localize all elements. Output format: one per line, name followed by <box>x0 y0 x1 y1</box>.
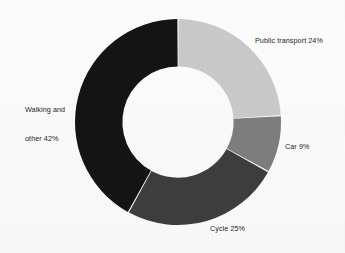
slice-label-walking-line1: Walking and <box>25 105 65 115</box>
donut-chart: Public transport 24% Car 9% Cycle 25% Wa… <box>0 0 345 253</box>
donut-slice-cycle[interactable] <box>129 149 268 225</box>
slice-label-cycle: Cycle 25% <box>210 224 245 234</box>
slice-label-car: Car 9% <box>285 142 309 152</box>
donut-slices <box>75 19 281 225</box>
slice-label-walking-line2: other 42% <box>25 134 65 144</box>
slice-label-walking-and-other: Walking and other 42% <box>25 86 65 163</box>
donut-slice-public-transport[interactable] <box>178 19 280 118</box>
slice-label-public-transport: Public transport 24% <box>255 36 323 46</box>
